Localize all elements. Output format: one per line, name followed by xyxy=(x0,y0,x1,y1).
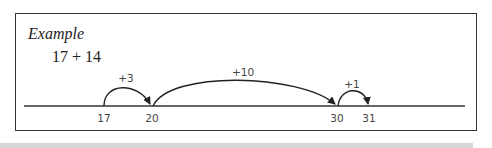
jump-label: +1 xyxy=(344,78,359,90)
jump-arc-plus-1 xyxy=(338,91,368,106)
tick-label: 31 xyxy=(362,112,375,124)
jump-label: +10 xyxy=(232,66,254,78)
tick-label: 30 xyxy=(330,112,343,124)
number-line: +3 +10 +1 17 20 30 31 xyxy=(0,0,492,148)
jump-arc-plus-10 xyxy=(153,80,335,106)
page-divider-band xyxy=(0,143,473,148)
jump-arc-plus-3 xyxy=(104,88,150,106)
tick-label: 17 xyxy=(97,112,110,124)
jump-label: +3 xyxy=(118,72,133,84)
tick-label: 20 xyxy=(145,112,158,124)
